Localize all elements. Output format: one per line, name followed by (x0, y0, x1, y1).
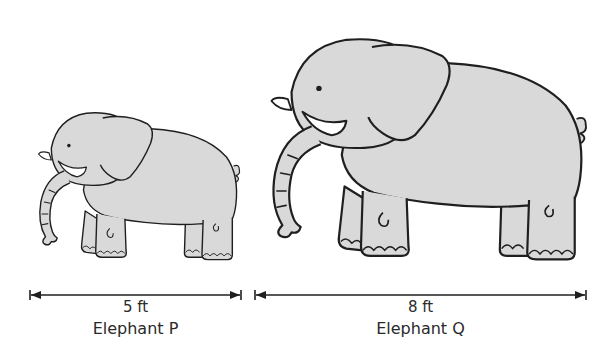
elephant-p-name-label: Elephant P (29, 319, 242, 338)
elephant-p-height-label: 5 ft (29, 298, 242, 316)
elephant-q-name-label: Elephant Q (254, 319, 587, 338)
elephant-p-illustration (28, 100, 244, 268)
elephant-q-height-label: 8 ft (254, 298, 587, 316)
elephant-icon (28, 100, 244, 268)
elephant-icon (255, 20, 593, 272)
elephant-q-illustration (255, 20, 593, 272)
